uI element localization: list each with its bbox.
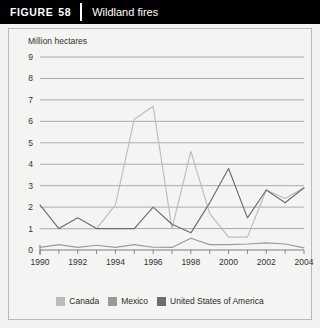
legend-swatch-canada (56, 297, 65, 306)
legend-item-united-states-of-america: United States of America (157, 296, 264, 306)
legend-label-mexico: Mexico (121, 296, 148, 306)
figure-number: 58 (58, 6, 71, 18)
figure-word: FIGURE (10, 6, 53, 18)
legend-swatch-united-states-of-america (157, 297, 166, 306)
figure-title: Wildland fires (82, 6, 158, 18)
chart-legend: Canada Mexico United States of America (0, 296, 320, 306)
legend-swatch-mexico (108, 297, 117, 306)
legend-item-canada: Canada (56, 296, 99, 306)
legend-label-canada: Canada (69, 296, 99, 306)
legend-item-mexico: Mexico (108, 296, 148, 306)
plot-frame (8, 28, 312, 320)
figure-card: FIGURE 58 Wildland fires Million hectare… (0, 0, 320, 328)
y-axis-title: Million hectares (28, 36, 87, 46)
legend-label-united-states-of-america: United States of America (170, 296, 264, 306)
figure-tag: FIGURE 58 (0, 0, 80, 24)
figure-header: FIGURE 58 Wildland fires (0, 0, 320, 24)
